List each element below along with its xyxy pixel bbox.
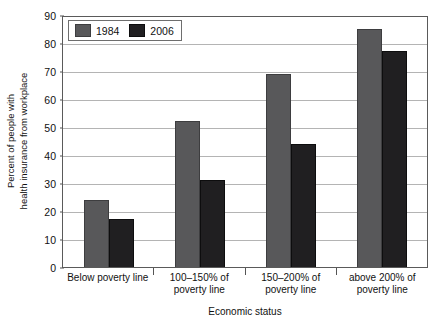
x-label-line: 150–200% of [245, 272, 337, 284]
y-tick-90: 90 [44, 10, 56, 22]
bar-group-below-poverty-line [63, 17, 154, 267]
bar-group-100-150-poverty-line [154, 17, 245, 267]
bar-group-above-200-poverty-line [336, 17, 427, 267]
x-label-line: poverty line [245, 284, 337, 296]
x-label-line: above 200% of [337, 272, 429, 284]
plot-area [62, 16, 428, 268]
x-axis-tick-labels: Below poverty line 100–150% of poverty l… [62, 272, 428, 296]
legend-label-2006: 2006 [150, 25, 173, 37]
bar-2006-150-200-poverty-line [291, 144, 316, 267]
y-axis-tick-labels: 90 80 70 60 50 40 30 20 10 0 [28, 0, 60, 322]
y-tick-30: 30 [44, 178, 56, 190]
x-label-line: poverty line [337, 284, 429, 296]
bar-1984-above-200-poverty-line [357, 29, 382, 267]
y-tick-20: 20 [44, 206, 56, 218]
y-tick-50: 50 [44, 122, 56, 134]
y-tick-80: 80 [44, 38, 56, 50]
bar-1984-below-poverty-line [84, 200, 109, 267]
y-axis-title-line-1: Percent of people with [5, 73, 18, 210]
legend: 1984 2006 [68, 20, 182, 41]
bar-2006-above-200-poverty-line [382, 51, 407, 267]
x-label-line: poverty line [154, 284, 246, 296]
bar-2006-below-poverty-line [109, 219, 134, 267]
y-tick-70: 70 [44, 66, 56, 78]
legend-swatch-1984 [75, 24, 91, 37]
y-tick-40: 40 [44, 150, 56, 162]
x-axis-title: Economic status [62, 306, 428, 317]
y-tick-60: 60 [44, 94, 56, 106]
y-tick-10: 10 [44, 234, 56, 246]
bar-1984-100-150-poverty-line [175, 121, 200, 267]
legend-item-2006: 2006 [129, 24, 173, 37]
bar-2006-100-150-poverty-line [200, 180, 225, 267]
x-label-line: 100–150% of [154, 272, 246, 284]
x-label-above-200-poverty-line: above 200% of poverty line [337, 272, 429, 296]
x-label-100-150-poverty-line: 100–150% of poverty line [154, 272, 246, 296]
legend-label-1984: 1984 [96, 25, 119, 37]
legend-item-1984: 1984 [75, 24, 119, 37]
bar-1984-150-200-poverty-line [266, 74, 291, 267]
bar-group-150-200-poverty-line [245, 17, 336, 267]
x-label-150-200-poverty-line: 150–200% of poverty line [245, 272, 337, 296]
bar-series-container [63, 17, 427, 267]
bar-chart-figure: Percent of people with health insurance … [0, 0, 438, 322]
x-label-line: Below poverty line [62, 272, 154, 284]
x-label-below-poverty-line: Below poverty line [62, 272, 154, 296]
legend-swatch-2006 [129, 24, 145, 37]
y-tick-0: 0 [50, 262, 56, 274]
